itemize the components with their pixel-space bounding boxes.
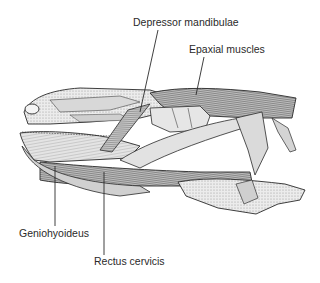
label-rectus-cervicis: Rectus cervicis <box>94 255 165 267</box>
label-depressor-mandibulae: Depressor mandibulae <box>133 16 239 28</box>
label-epaxial-muscles: Epaxial muscles <box>189 43 265 55</box>
eye-socket <box>25 104 39 114</box>
label-geniohyoideus: Geniohyoideus <box>19 227 89 239</box>
pectoral-girdle <box>178 179 305 214</box>
anatomy-illustration <box>0 0 320 283</box>
